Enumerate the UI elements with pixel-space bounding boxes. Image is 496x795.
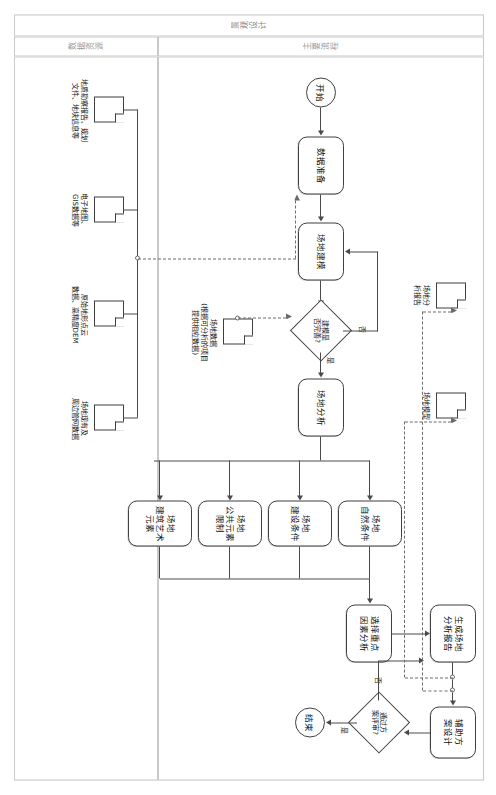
data-object-site-data[interactable]	[223, 318, 253, 344]
data-object-geo-report[interactable]	[94, 96, 124, 122]
data-object-pointcloud-dem[interactable]	[94, 300, 124, 326]
data-object-site-data-label: 场地数据 (根据可分析的项目 提供相应数据)	[190, 286, 217, 378]
data-object-emap-gis[interactable]	[94, 196, 124, 222]
data-object-pointcloud-dem-label: 原始地形点云 数据、高精度DEM	[70, 268, 88, 360]
data-object-emap-gis-label: 电子地图、 GIS数据等	[70, 168, 88, 252]
data-object-geo-report-label: 地质勘察报告、规划 文件、地块信息等	[70, 66, 88, 154]
data-object-pipe-network-label: 场地现有及 周边管网数据	[70, 374, 88, 462]
data-object-pipe-network[interactable]	[94, 404, 124, 430]
